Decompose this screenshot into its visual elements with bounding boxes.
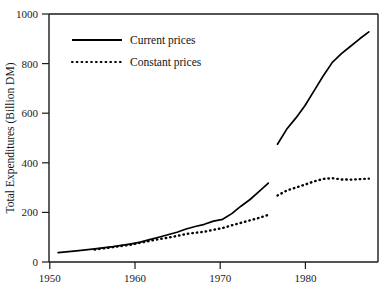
y-tick-label-800: 800	[22, 58, 39, 70]
y-tick-label-0: 0	[33, 256, 39, 268]
series-0-segment-1	[277, 32, 368, 144]
y-tick-label-600: 600	[22, 107, 39, 119]
legend-label-constant-prices: Constant prices	[130, 56, 202, 69]
y-axis-ticks	[42, 14, 49, 262]
data-series-layer	[58, 32, 369, 253]
x-axis-tick-labels: 1950 1960 1970 1980	[39, 272, 317, 284]
y-tick-label-400: 400	[22, 157, 39, 169]
plot-frame	[49, 14, 378, 262]
x-tick-label-1960: 1960	[124, 272, 147, 284]
y-axis-title: Total Expenditures (Billion DM)	[4, 62, 17, 213]
series-1-segment-0	[95, 215, 269, 250]
x-tick-label-1970: 1970	[209, 272, 232, 284]
chart-legend: Current prices Constant prices	[72, 34, 202, 69]
x-tick-label-1950: 1950	[39, 272, 62, 284]
chart-figure: 0 200 400 600 800 1000 1950 1960 1970 19…	[0, 0, 388, 295]
y-tick-label-1000: 1000	[16, 8, 39, 20]
x-axis-ticks	[50, 262, 306, 269]
series-1-segment-1	[277, 178, 368, 195]
series-current-prices	[58, 32, 369, 253]
x-tick-label-1980: 1980	[294, 272, 317, 284]
y-axis-tick-labels: 0 200 400 600 800 1000	[16, 8, 39, 268]
y-tick-label-200: 200	[22, 206, 39, 218]
line-chart-plot: 0 200 400 600 800 1000 1950 1960 1970 19…	[0, 0, 388, 295]
legend-label-current-prices: Current prices	[130, 34, 196, 47]
series-0-segment-0	[58, 183, 268, 252]
